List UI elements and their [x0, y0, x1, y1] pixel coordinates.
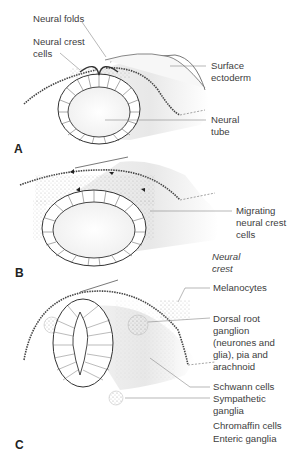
panel-b-drawing: [20, 157, 232, 266]
label-chromaffin-cells: Chromaffin cells: [213, 420, 282, 432]
neural-crest-diagram: Neural folds Neural crest cells Surface …: [0, 0, 295, 459]
label-melanocytes: Melanocytes: [213, 282, 267, 294]
panel-label-b: B: [15, 266, 24, 280]
label-neural-folds: Neural folds: [33, 13, 84, 25]
panel-label-c: C: [15, 438, 24, 452]
label-neural-tube: Neural tube: [211, 114, 239, 138]
label-neural-crest-heading: Neural crest: [212, 251, 240, 275]
label-dorsal-root-ganglion: Dorsal root ganglion (neurones and glia)…: [213, 313, 275, 373]
label-surface-ectoderm: Surface ectoderm: [211, 60, 251, 84]
label-sympathetic-ganglia: Sympathetic ganglia: [213, 393, 266, 417]
panel-label-a: A: [14, 142, 23, 156]
label-schwann-cells: Schwann cells: [213, 381, 274, 393]
label-migrating-neural-crest-cells: Migrating neural crest cells: [236, 205, 286, 241]
panel-c-drawing: [24, 280, 215, 405]
label-enteric-ganglia: Enteric ganglia: [213, 433, 276, 445]
label-neural-crest-cells: Neural crest cells: [33, 36, 85, 60]
